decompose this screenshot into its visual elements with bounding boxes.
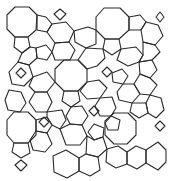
hexagon-tile	[146, 95, 164, 118]
hexagon-tile	[9, 62, 33, 86]
hexagon-tile	[80, 80, 107, 99]
hexagon-tile	[141, 22, 163, 45]
tiling-diagram	[0, 0, 173, 181]
hexagon-tile	[52, 42, 75, 60]
pentagon-tile	[112, 69, 128, 84]
hexagon-tile	[78, 48, 105, 69]
hexagon-tile	[60, 124, 87, 145]
pentagon-tile	[36, 45, 52, 60]
hexagon-tile	[47, 110, 66, 129]
pentagon-tile	[12, 143, 30, 158]
hexagon-tile	[79, 154, 100, 176]
pentagon-tile	[103, 39, 121, 55]
pentagon-tile	[36, 117, 52, 133]
hexagon-tile	[139, 42, 160, 62]
octagon-tile	[7, 7, 37, 37]
square-tile	[15, 160, 27, 171]
pentagon-tile	[129, 15, 146, 30]
pentagon-tile	[37, 15, 52, 32]
hexagon-tile	[29, 92, 52, 112]
hexagon-tile	[95, 97, 116, 116]
square-tile	[16, 68, 26, 78]
square-tile	[155, 121, 165, 131]
octagon-tile	[146, 142, 166, 170]
octagon-tile	[53, 150, 79, 178]
hexagon-tile	[106, 146, 127, 168]
hexagon-tile	[117, 84, 140, 103]
pentagon-tile	[62, 91, 80, 107]
octagon-tile	[96, 8, 129, 39]
square-tile	[156, 12, 164, 22]
hexagon-tile	[66, 106, 88, 125]
pentagon-tile	[130, 103, 148, 118]
hexagon-tile	[47, 22, 74, 43]
hexagon-tile	[74, 27, 96, 48]
pentagon-tile	[14, 37, 30, 53]
hexagon-tile	[86, 136, 107, 157]
square-tile	[102, 67, 112, 77]
square-tile	[54, 9, 66, 20]
hexagon-tile	[127, 146, 146, 169]
hexagon-tile	[5, 90, 26, 112]
pentagon-tile	[139, 60, 157, 78]
hexagon-tile	[30, 131, 52, 152]
hexagon-tile	[134, 74, 157, 95]
pentagon-tile	[105, 116, 120, 130]
